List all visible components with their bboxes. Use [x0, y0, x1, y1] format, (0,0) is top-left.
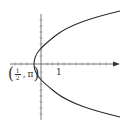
parabola-graph: [0, 0, 127, 126]
fraction-denominator: 2: [16, 75, 20, 81]
vertex-label: ( 1 2 , π ): [8, 67, 39, 82]
vertex-label-close-paren: ): [33, 66, 39, 83]
vertex-label-comma: ,: [23, 70, 26, 79]
x-tick-label-one: 1: [56, 68, 62, 77]
vertex-label-open-paren: (: [8, 66, 14, 83]
vertex-label-fraction: 1 2: [15, 68, 21, 81]
x-axis-arrow-icon: [113, 62, 120, 67]
